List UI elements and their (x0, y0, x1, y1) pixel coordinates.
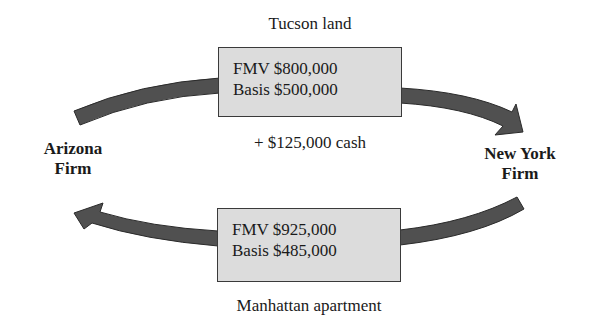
bottom-transfer-title: Manhattan apartment (200, 296, 418, 316)
top-arrow-right-segment (400, 88, 523, 135)
top-transfer-box: FMV $800,000 Basis $500,000 (218, 47, 402, 117)
top-fmv: FMV $800,000 (233, 58, 401, 79)
arizona-firm-label: Arizona Firm (28, 139, 118, 179)
cash-boot-label: + $125,000 cash (218, 133, 402, 153)
bottom-fmv: FMV $925,000 (232, 219, 400, 240)
new-york-firm-line2: Firm (470, 164, 570, 184)
new-york-firm-label: New York Firm (470, 144, 570, 184)
bottom-transfer-box: FMV $925,000 Basis $485,000 (217, 208, 401, 282)
bottom-arrow-left-segment (74, 203, 218, 246)
arizona-firm-line1: Arizona (28, 139, 118, 159)
bottom-basis: Basis $485,000 (232, 240, 400, 261)
arizona-firm-line2: Firm (28, 159, 118, 179)
new-york-firm-line1: New York (470, 144, 570, 164)
top-arrow-left-segment (74, 78, 220, 125)
top-basis: Basis $500,000 (233, 79, 401, 100)
top-transfer-title: Tucson land (218, 14, 402, 34)
bottom-arrow-right-segment (400, 197, 524, 245)
